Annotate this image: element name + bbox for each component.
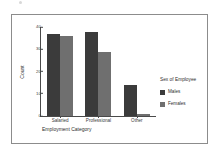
y-tick-label: 10	[25, 92, 41, 96]
bar-group-professional: Professional	[79, 27, 117, 116]
legend-label-males: Males	[168, 90, 180, 95]
legend-swatch-males	[160, 90, 165, 95]
x-tick-label-other: Other	[131, 119, 143, 124]
plot-area: Count 40 30 20 10 0 Salaried Professiona…	[40, 27, 156, 117]
bar-females-salaried[interactable]	[60, 36, 73, 116]
legend-item-females[interactable]: Females	[160, 102, 216, 107]
legend-label-females: Females	[168, 102, 186, 107]
y-tick-label: 40	[25, 25, 41, 29]
y-tick-label: 20	[25, 69, 41, 73]
bar-males-professional[interactable]	[85, 32, 98, 117]
bar-females-other[interactable]	[137, 114, 150, 116]
chart-object-frame[interactable]: Count 40 30 20 10 0 Salaried Professiona…	[11, 14, 208, 144]
bar-group-other: Other	[118, 27, 156, 116]
legend: Sex of Employee Males Females	[160, 78, 216, 114]
legend-item-males[interactable]: Males	[160, 90, 216, 95]
capture-artifact-dot	[19, 1, 22, 4]
y-tick-label: 30	[25, 47, 41, 51]
bar-males-other[interactable]	[124, 85, 137, 116]
bar-females-professional[interactable]	[98, 52, 111, 117]
x-axis-title: Employment Category	[42, 127, 91, 132]
bar-males-salaried[interactable]	[47, 34, 60, 116]
bar-group-salaried: Salaried	[41, 27, 79, 116]
legend-swatch-females	[160, 102, 165, 107]
legend-title: Sex of Employee	[160, 78, 216, 83]
bar-groups: Salaried Professional Other	[41, 27, 156, 116]
x-tick-label-salaried: Salaried	[52, 119, 69, 124]
y-tick-label: 0	[25, 114, 41, 118]
x-tick-label-professional: Professional	[86, 119, 111, 124]
